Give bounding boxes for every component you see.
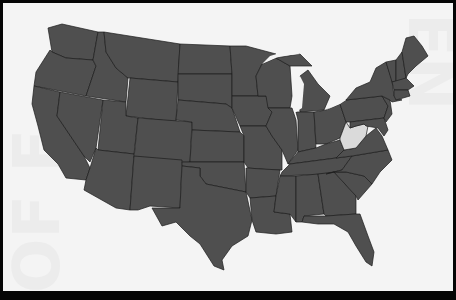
- state-kansas[interactable]: [190, 130, 244, 162]
- state-wyoming[interactable]: [126, 78, 178, 122]
- state-florida[interactable]: [302, 214, 374, 266]
- state-iowa[interactable]: [232, 96, 272, 126]
- state-north-dakota[interactable]: [178, 44, 232, 74]
- map-canvas: OF F EN: [3, 3, 453, 291]
- state-indiana[interactable]: [296, 112, 316, 152]
- state-connecticut[interactable]: [394, 90, 410, 100]
- state-new-mexico[interactable]: [130, 156, 182, 210]
- map-frame: OF F EN: [0, 0, 456, 300]
- state-arkansas[interactable]: [246, 168, 280, 198]
- state-colorado[interactable]: [134, 118, 192, 162]
- us-map: [3, 3, 453, 291]
- state-maine[interactable]: [402, 36, 428, 78]
